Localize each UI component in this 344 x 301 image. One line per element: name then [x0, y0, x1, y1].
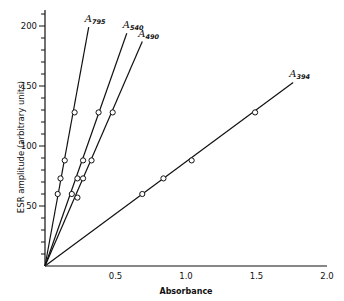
data-point — [140, 191, 145, 196]
data-point — [96, 110, 101, 115]
series-label: A490 — [137, 28, 159, 41]
data-point — [58, 176, 63, 181]
data-point — [69, 191, 74, 196]
axes: 501001502000.51.01.52.0 — [21, 10, 334, 281]
data-point — [110, 110, 115, 115]
series-group: A795A540A490A394 — [45, 13, 310, 266]
series-label: A394 — [288, 68, 310, 81]
y-tick-label: 200 — [21, 21, 37, 31]
series-line — [45, 33, 127, 266]
data-point — [75, 195, 80, 200]
series-A394: A394 — [45, 68, 310, 266]
data-point — [55, 191, 60, 196]
series-label: A795 — [84, 13, 106, 26]
data-point — [80, 158, 85, 163]
series-line — [45, 27, 89, 266]
chart: 501001502000.51.01.52.0 A795A540A490A394… — [0, 0, 344, 301]
data-point — [80, 176, 85, 181]
data-point — [75, 176, 80, 181]
x-tick-label: 1.5 — [250, 271, 264, 281]
data-point — [189, 158, 194, 163]
y-axis-label: ESR amplitude (arbitrary units) — [16, 81, 26, 213]
data-point — [72, 110, 77, 115]
x-tick-label: 2.0 — [320, 271, 334, 281]
series-A490: A490 — [45, 28, 160, 266]
x-tick-label: 1.0 — [179, 271, 193, 281]
y-tick-label: 50 — [26, 201, 37, 211]
data-point — [62, 158, 67, 163]
data-point — [89, 158, 94, 163]
data-point — [252, 110, 257, 115]
series-line — [45, 42, 142, 266]
data-point — [161, 176, 166, 181]
x-axis-label: Absorbance — [159, 287, 213, 296]
x-tick-label: 0.5 — [109, 271, 123, 281]
